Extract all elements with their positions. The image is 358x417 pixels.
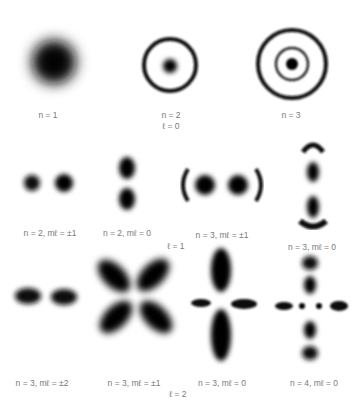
orbital-diagram — [0, 0, 358, 417]
orbital-3p-m1 — [183, 169, 261, 201]
orbital-1s — [32, 40, 76, 84]
label-3d-m1: n = 3, mℓ = ±1 — [108, 378, 161, 388]
group-label-l0: ℓ = 0 — [162, 121, 179, 131]
orbital-2p-m1 — [24, 174, 73, 192]
label-2s: n = 2 — [161, 110, 180, 120]
label-3p-m1: n = 3, mℓ = ±1 — [196, 230, 249, 240]
label-2p-m1: n = 2, mℓ = ±1 — [24, 228, 77, 238]
label-3d-m2: n = 3, mℓ = ±2 — [16, 378, 69, 388]
label-3s: n = 3 — [281, 110, 300, 120]
orbital-3s — [258, 30, 326, 98]
label-4d-m0: n = 4, mℓ = 0 — [290, 378, 338, 388]
group-label-l2: ℓ = 2 — [169, 389, 186, 399]
label-1s: n = 1 — [38, 110, 57, 120]
orbital-3d-m2 — [15, 288, 77, 305]
label-2p-m0: n = 2, mℓ = 0 — [103, 228, 151, 238]
group-label-l1: ℓ = 1 — [167, 241, 184, 251]
label-3p-m0: n = 3, mℓ = 0 — [288, 242, 336, 252]
label-3d-m0: n = 3, mℓ = 0 — [198, 378, 246, 388]
orbital-3d-m1 — [92, 253, 178, 339]
orbital-3p-m0 — [300, 145, 326, 227]
orbital-2s — [144, 39, 196, 91]
orbital-3d-m0 — [191, 248, 257, 361]
orbital-2p-m0 — [119, 157, 135, 210]
orbital-4d-m0 — [275, 256, 348, 360]
